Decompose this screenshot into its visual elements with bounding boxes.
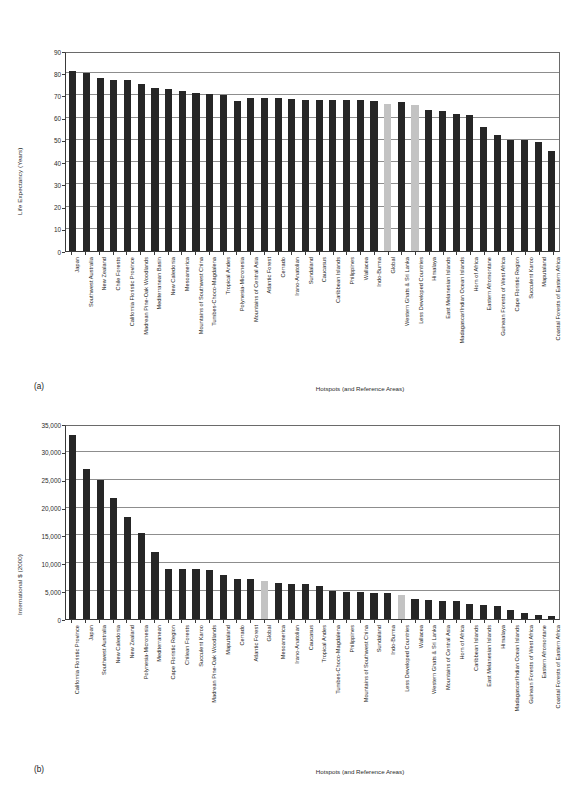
- x-tick-mark: [305, 620, 306, 623]
- bar-mountains-of-central-asia: [439, 601, 446, 619]
- bar-slot: [258, 426, 272, 619]
- bar-slot: [244, 53, 258, 251]
- bar-new-caledonia: [110, 498, 117, 619]
- x-label-slot: Mediterranean: [148, 625, 162, 755]
- x-tick-slot: [354, 252, 368, 255]
- y-tick-mark: [62, 119, 65, 120]
- x-tick-slot: [65, 620, 79, 623]
- bar-eastern-afromontane: [535, 615, 542, 619]
- x-label-slot: Irano-Anatolian: [285, 257, 299, 377]
- x-tick-slot: [230, 620, 244, 623]
- x-tick-slot: [326, 252, 340, 255]
- x-tick-mark: [181, 252, 182, 255]
- x-tick-mark: [113, 620, 114, 623]
- x-tick-mark: [553, 252, 554, 255]
- bar-slot: [299, 53, 313, 251]
- x-label-slot: Polynesia-Micronesia: [134, 625, 148, 755]
- x-label-slot: Caribbean Islands: [326, 257, 340, 377]
- x-tick-slot: [299, 252, 313, 255]
- y-tick-mark: [62, 481, 65, 482]
- bar-slot: [66, 53, 80, 251]
- bar-slot: [531, 53, 545, 251]
- bar-slot: [285, 426, 299, 619]
- bar-western-ghats-sri-lanka: [425, 600, 432, 619]
- x-label-slot: California Floristic Province: [120, 257, 134, 377]
- x-tick-mark: [154, 620, 155, 623]
- x-label-slot: Madrean Pine-Oak Woodlands: [203, 625, 217, 755]
- bar-slot: [80, 53, 94, 251]
- x-tick-mark: [401, 620, 402, 623]
- bar-slot: [367, 53, 381, 251]
- x-label-slot: Horn of Africa: [464, 257, 478, 377]
- x-tick-mark: [278, 252, 279, 255]
- x-tick-mark: [360, 252, 361, 255]
- bar-slot: [230, 53, 244, 251]
- x-label-slot: Coastal Forests of Eastern Africa: [546, 625, 560, 755]
- bar-slot: [353, 426, 367, 619]
- x-tick-mark: [498, 620, 499, 623]
- bar-horn-of-africa: [466, 115, 473, 251]
- bar-global: [261, 581, 268, 619]
- bar-slot: [545, 53, 559, 251]
- x-tick-mark: [429, 620, 430, 623]
- x-tick-mark: [236, 620, 237, 623]
- x-tick-slot: [423, 620, 437, 623]
- x-tick-slot: [106, 252, 120, 255]
- x-tick-slot: [436, 620, 450, 623]
- bar-slot: [107, 426, 121, 619]
- x-tick-slot: [161, 620, 175, 623]
- y-tick-label: 30: [19, 182, 61, 189]
- panel-b-plot-area: [65, 425, 560, 620]
- x-label-slot: Cerrado: [230, 625, 244, 755]
- x-label-slot: New Caledonia: [106, 625, 120, 755]
- bar-slot: [408, 53, 422, 251]
- bar-slot: [93, 426, 107, 619]
- bar-maputaland: [220, 575, 227, 619]
- y-tick-mark: [62, 163, 65, 164]
- x-label-slot: Mountains of Central Asia: [244, 257, 258, 377]
- x-tick-mark: [525, 252, 526, 255]
- x-tick-slot: [478, 620, 492, 623]
- x-tick-slot: [271, 620, 285, 623]
- panel-b-x-axis-title: Hotspots (and Reference Areas): [250, 768, 470, 775]
- x-label-slot: Less Developed Countries: [409, 257, 423, 377]
- y-tick-label: 10: [19, 226, 61, 233]
- y-tick-mark: [62, 453, 65, 454]
- bar-global: [384, 104, 391, 251]
- x-label-slot: Guinean Forests of West Africa: [519, 625, 533, 755]
- x-tick-slot: [533, 620, 547, 623]
- x-tick-slot: [285, 620, 299, 623]
- x-label-slot: Eastern Afromontane: [533, 625, 547, 755]
- x-tick-slot: [368, 620, 382, 623]
- x-tick-mark: [291, 252, 292, 255]
- bar-slot: [162, 426, 176, 619]
- x-tick-slot: [244, 620, 258, 623]
- x-tick-mark: [140, 252, 141, 255]
- bar-slot: [217, 426, 231, 619]
- x-tick-slot: [299, 620, 313, 623]
- bar-indo-burma: [384, 593, 391, 619]
- x-tick-slot: [134, 620, 148, 623]
- panel-a-x-axis-ticks: [65, 252, 560, 255]
- x-tick-slot: [189, 252, 203, 255]
- x-tick-mark: [415, 252, 416, 255]
- bar-cerrado: [275, 98, 282, 251]
- bar-guinean-forests-of-west-africa: [521, 613, 528, 619]
- bar-himalaya: [425, 110, 432, 251]
- bar-slot: [436, 426, 450, 619]
- y-tick-label: 5,000: [19, 589, 61, 596]
- x-tick-slot: [106, 620, 120, 623]
- bar-madrean-pine-oak-woodlands: [138, 84, 145, 251]
- x-tick-slot: [313, 620, 327, 623]
- bar-japan: [69, 71, 76, 251]
- bar-southwest-australia: [83, 73, 90, 251]
- x-label-slot: East Melanesian Islands: [436, 257, 450, 377]
- bar-mediterranean-basin: [151, 88, 158, 251]
- x-label-slot: Tumbes-Choco-Magdalena: [203, 257, 217, 377]
- x-tick-slot: [326, 620, 340, 623]
- x-tick-mark: [195, 252, 196, 255]
- x-label-slot: Chile Forests: [106, 257, 120, 377]
- x-label-slot: Wallacea: [354, 257, 368, 377]
- bar-california-floristic-province: [124, 80, 131, 251]
- bar-slot: [381, 53, 395, 251]
